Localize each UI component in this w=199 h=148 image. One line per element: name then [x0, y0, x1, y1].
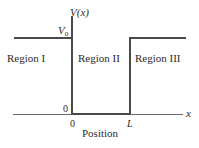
- v0-label: V0: [58, 25, 68, 40]
- x-axis-label: x: [186, 108, 191, 119]
- zero-position-label: 0: [70, 118, 75, 129]
- v0-letter: V: [58, 24, 65, 36]
- potential-diagram: [0, 0, 199, 148]
- region-2-label: Region II: [78, 53, 120, 64]
- y-axis-label: V(x): [70, 7, 89, 18]
- zero-potential-label: 0: [63, 103, 68, 114]
- L-label: L: [127, 118, 133, 129]
- region-3-label: Region III: [135, 53, 181, 64]
- region-1-label: Region I: [7, 53, 45, 64]
- position-axis-title: Position: [82, 128, 118, 139]
- v0-subscript: 0: [65, 30, 69, 38]
